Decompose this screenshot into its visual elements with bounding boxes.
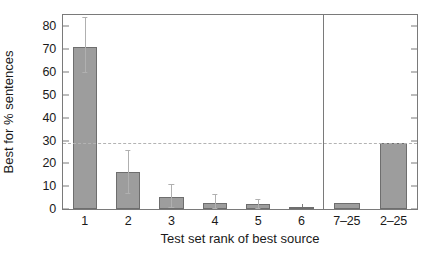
error-bar-cap [255, 208, 260, 209]
y-tick-mark [411, 140, 417, 141]
group-separator-line [323, 15, 324, 209]
y-tick-mark [411, 117, 417, 118]
bar [289, 207, 313, 209]
y-tick-mark [411, 94, 417, 95]
bar [380, 143, 406, 209]
x-tick-label: 2–25 [380, 209, 407, 228]
y-tick-label: 30 [42, 134, 63, 148]
x-tick-label: 1 [81, 209, 88, 228]
y-tick-mark [63, 209, 69, 210]
x-tick-label: 6 [298, 209, 305, 228]
error-bar-cap [82, 17, 87, 18]
y-tick-label: 50 [42, 88, 63, 102]
y-tick-label: 80 [42, 19, 63, 33]
y-tick-label: 0 [49, 202, 63, 216]
error-bar [171, 184, 172, 207]
y-tick-mark [411, 163, 417, 164]
y-tick-label: 60 [42, 65, 63, 79]
x-tick-label: 4 [211, 209, 218, 228]
bar [334, 203, 360, 209]
error-bar [128, 150, 129, 193]
y-tick-mark [411, 26, 417, 27]
error-bar [85, 17, 86, 72]
figure: Best for % sentences 01020304050607080 1… [0, 0, 435, 256]
x-axis-label: Test set rank of best source [62, 231, 418, 246]
error-bar-cap [212, 194, 217, 195]
y-tick-mark [63, 117, 69, 118]
y-tick-mark [63, 72, 69, 73]
y-tick-mark [411, 186, 417, 187]
error-bar-cap [212, 208, 217, 209]
x-tick-label: 2 [125, 209, 132, 228]
plot-area: 01020304050607080 1234567–252–25 [62, 14, 418, 210]
error-bar-cap [125, 193, 130, 194]
y-tick-mark [63, 163, 69, 164]
y-axis-label: Best for % sentences [1, 51, 16, 174]
x-tick-label: 3 [168, 209, 175, 228]
y-tick-mark [63, 26, 69, 27]
y-tick-label: 10 [42, 179, 63, 193]
reference-line [63, 143, 417, 144]
error-bar-cap [169, 184, 174, 185]
y-tick-label: 20 [42, 156, 63, 170]
y-tick-mark [63, 94, 69, 95]
y-tick-mark [411, 72, 417, 73]
error-bar-cap [125, 150, 130, 151]
y-tick-mark [63, 140, 69, 141]
y-tick-label: 70 [42, 42, 63, 56]
y-tick-mark [63, 186, 69, 187]
error-bar-cap [255, 199, 260, 200]
error-bar [258, 199, 259, 208]
error-bar-cap [169, 207, 174, 208]
y-tick-mark [411, 49, 417, 50]
error-bar [215, 194, 216, 208]
y-tick-mark [411, 209, 417, 210]
error-bar-cap [82, 72, 87, 73]
y-tick-mark [63, 49, 69, 50]
y-tick-label: 40 [42, 111, 63, 125]
x-tick-label: 7–25 [333, 209, 360, 228]
x-tick-label: 5 [255, 209, 262, 228]
